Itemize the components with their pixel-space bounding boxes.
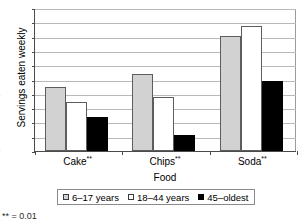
legend-swatch-icon [63,194,69,200]
y-tick-mark [32,52,35,53]
bar [87,117,108,151]
legend-entry: 6–17 years [63,192,119,203]
y-axis-title: Servings eaten weekly [16,5,27,150]
gridline [35,9,296,10]
significance-marker: ** [87,155,92,162]
y-tick-mark [32,123,35,124]
x-tick-mark [35,151,36,155]
x-category-label: Soda** [209,156,296,167]
legend-label: 6–17 years [72,192,119,203]
x-tick-mark [122,151,123,155]
legend-swatch-icon [128,194,134,200]
legend-label: 18–44 years [137,192,189,203]
chart-legend: 6–17 years18–44 years45–oldest [57,189,255,205]
bar [45,87,66,151]
bar [174,135,195,151]
y-tick-mark [32,9,35,10]
plot-area [34,9,296,152]
legend-label: 45–oldest [207,192,248,203]
significance-footnote: ** = 0.01 [2,211,37,221]
bar [262,81,283,151]
significance-marker: ** [175,155,180,162]
bar [132,74,153,151]
bar-chart-figure: Servings eaten weekly 012345678910 Cake*… [0,0,301,221]
bar [66,102,87,151]
y-tick-mark [32,23,35,24]
bar [220,36,241,151]
gridline [35,23,296,24]
legend-entry: 18–44 years [128,192,189,203]
y-tick-mark [32,38,35,39]
legend-swatch-icon [198,194,204,200]
y-tick-mark [32,81,35,82]
x-category-label: Chips** [121,156,208,167]
y-tick-mark [32,95,35,96]
y-tick-mark [32,109,35,110]
x-tick-mark [297,151,298,155]
y-tick-mark [32,66,35,67]
x-tick-mark [210,151,211,155]
bar [241,26,262,151]
y-tick-mark [32,138,35,139]
significance-marker: ** [261,155,266,162]
bar [153,97,174,151]
legend-entry: 45–oldest [198,192,248,203]
x-category-label: Cake** [34,156,121,167]
x-axis-title: Food [34,172,296,183]
